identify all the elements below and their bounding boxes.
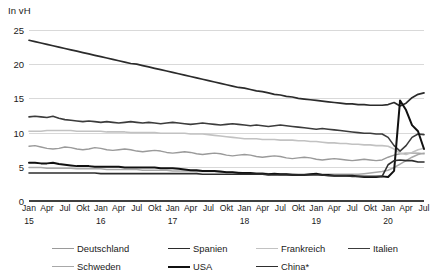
y-axis-tick-labels: 0510152025 bbox=[0, 30, 24, 201]
x-tick-3: Okt bbox=[76, 203, 89, 213]
legend-row-0: DeutschlandSpanienFrankreichItalien bbox=[0, 240, 428, 257]
x-tick-5: Apr bbox=[112, 203, 125, 213]
legend-item-china[interactable]: China* bbox=[256, 258, 309, 275]
line-usa bbox=[29, 100, 424, 177]
x-year-20: 20 bbox=[383, 216, 393, 226]
x-tick-6: Jul bbox=[131, 203, 142, 213]
x-tick-7: Okt bbox=[148, 203, 161, 213]
x-tick-15: Okt bbox=[292, 203, 305, 213]
x-year-16: 16 bbox=[96, 216, 106, 226]
chart-legend: DeutschlandSpanienFrankreichItalienSchwe… bbox=[0, 240, 428, 278]
line-frankreich bbox=[29, 131, 424, 155]
legend-swatch-icon bbox=[168, 266, 190, 268]
x-axis-line bbox=[29, 200, 424, 202]
x-tick-22: Jul bbox=[419, 203, 430, 213]
legend-item-spanien[interactable]: Spanien bbox=[168, 240, 227, 257]
x-year-17: 17 bbox=[168, 216, 178, 226]
line-italien bbox=[29, 116, 424, 151]
legend-item-schweden[interactable]: Schweden bbox=[52, 258, 121, 275]
line-deutschland bbox=[29, 146, 424, 161]
x-tick-20: Jan bbox=[381, 203, 395, 213]
legend-swatch-icon bbox=[256, 248, 278, 249]
x-tick-21: Apr bbox=[399, 203, 412, 213]
legend-swatch-icon bbox=[168, 248, 190, 249]
legend-item-italien[interactable]: Italien bbox=[348, 240, 398, 257]
y-axis-unit-title: In vH bbox=[8, 5, 31, 16]
x-tick-16: Jan bbox=[309, 203, 323, 213]
y-tick-20: 20 bbox=[13, 59, 24, 70]
x-tick-18: Jul bbox=[347, 203, 358, 213]
x-tick-19: Okt bbox=[363, 203, 376, 213]
legend-row-1: SchwedenUSAChina* bbox=[0, 258, 428, 275]
x-tick-11: Okt bbox=[220, 203, 233, 213]
x-year-15: 15 bbox=[24, 216, 34, 226]
y-tick-15: 15 bbox=[13, 93, 24, 104]
legend-label: Deutschland bbox=[77, 244, 129, 253]
legend-label: Frankreich bbox=[281, 244, 325, 253]
x-tick-2: Jul bbox=[59, 203, 70, 213]
line-spanien bbox=[29, 40, 424, 106]
x-axis-labels: JanAprJulOktJanAprJulOktJanAprJulOktJanA… bbox=[29, 203, 424, 235]
legend-label: Italien bbox=[373, 244, 398, 253]
x-tick-0: Jan bbox=[22, 203, 36, 213]
y-tick-10: 10 bbox=[13, 127, 24, 138]
x-tick-9: Apr bbox=[184, 203, 197, 213]
x-year-19: 19 bbox=[311, 216, 321, 226]
legend-swatch-icon bbox=[52, 248, 74, 249]
y-tick-25: 25 bbox=[13, 25, 24, 36]
line-schweden bbox=[29, 153, 424, 174]
legend-item-frankreich[interactable]: Frankreich bbox=[256, 240, 325, 257]
x-tick-10: Jul bbox=[203, 203, 214, 213]
x-tick-12: Jan bbox=[238, 203, 252, 213]
series-lines bbox=[29, 30, 424, 201]
x-year-18: 18 bbox=[240, 216, 250, 226]
x-tick-8: Jan bbox=[166, 203, 180, 213]
legend-swatch-icon bbox=[256, 266, 278, 267]
x-tick-17: Apr bbox=[328, 203, 341, 213]
legend-item-deutschland[interactable]: Deutschland bbox=[52, 240, 129, 257]
legend-label: Schweden bbox=[77, 262, 121, 271]
x-tick-4: Jan bbox=[94, 203, 108, 213]
plot-area bbox=[29, 30, 424, 201]
legend-swatch-icon bbox=[52, 266, 74, 267]
legend-item-usa[interactable]: USA bbox=[168, 258, 212, 275]
x-tick-13: Apr bbox=[256, 203, 269, 213]
legend-label: USA bbox=[193, 262, 212, 271]
legend-label: China* bbox=[281, 262, 309, 271]
x-tick-1: Apr bbox=[40, 203, 53, 213]
legend-label: Spanien bbox=[193, 244, 227, 253]
x-tick-14: Jul bbox=[275, 203, 286, 213]
y-tick-5: 5 bbox=[19, 161, 24, 172]
legend-swatch-icon bbox=[348, 248, 370, 249]
